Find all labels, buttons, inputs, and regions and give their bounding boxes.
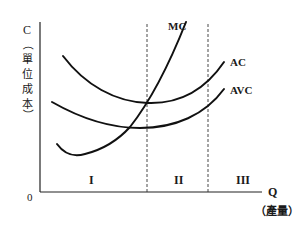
x-axis-symbol: Q (268, 185, 277, 199)
x-axis-label: （產量） (255, 204, 299, 217)
origin-label: 0 (27, 191, 33, 203)
mc-label: MC (168, 20, 186, 32)
y-axis-label-char: 單 (22, 53, 33, 65)
region-label-2: II (174, 173, 184, 187)
mc-curve (57, 22, 186, 155)
ac-curve (63, 56, 224, 103)
y-axis-label-char: 位 (22, 67, 33, 80)
ac-label: AC (230, 56, 246, 68)
avc-curve (52, 89, 224, 128)
avc-label: AVC (230, 84, 252, 96)
y-axis-label-char: （ (22, 39, 34, 50)
region-label-3: III (236, 173, 250, 187)
cost-curves-diagram: MC AC AVC I II III C Q 0 （產量） （ 單 位 成 本 … (0, 0, 305, 229)
y-axis-label-char: ） (22, 109, 34, 120)
y-axis-symbol: C (23, 23, 31, 37)
y-axis-label-char: 成 (22, 83, 33, 95)
y-axis-label: （ 單 位 成 本 ） (22, 39, 34, 120)
region-label-1: I (89, 173, 94, 187)
